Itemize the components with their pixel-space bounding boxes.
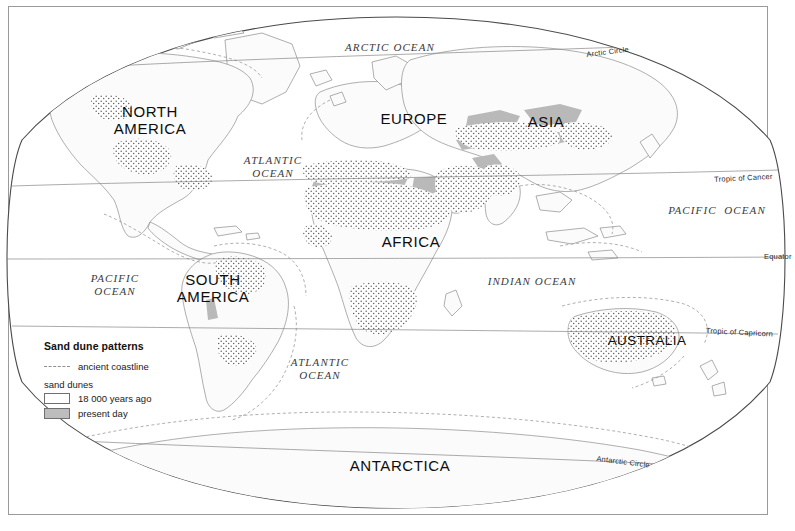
dashed-line-icon: [44, 366, 70, 367]
legend-row-dunes-present: present day: [44, 408, 194, 419]
world-map-figure: NORTHAMERICA SOUTHAMERICA EUROPE ASIA AF…: [0, 0, 795, 531]
legend-row-ancient-coastline: ancient coastline: [44, 361, 194, 372]
legend-subheading-sand-dunes: sand dunes: [44, 379, 194, 390]
map-legend: Sand dune patterns ancient coastline san…: [44, 340, 194, 423]
legend-label-ancient-coastline: ancient coastline: [78, 361, 149, 372]
legend-row-dunes-18000: 18 000 years ago: [44, 393, 194, 404]
map-drawing: [0, 0, 795, 531]
solid-gray-swatch-icon: [44, 408, 70, 419]
legend-label-dunes-present: present day: [78, 408, 128, 419]
legend-label-dunes-18000: 18 000 years ago: [78, 393, 151, 404]
legend-title: Sand dune patterns: [44, 340, 194, 352]
stipple-swatch-icon: [44, 393, 70, 404]
